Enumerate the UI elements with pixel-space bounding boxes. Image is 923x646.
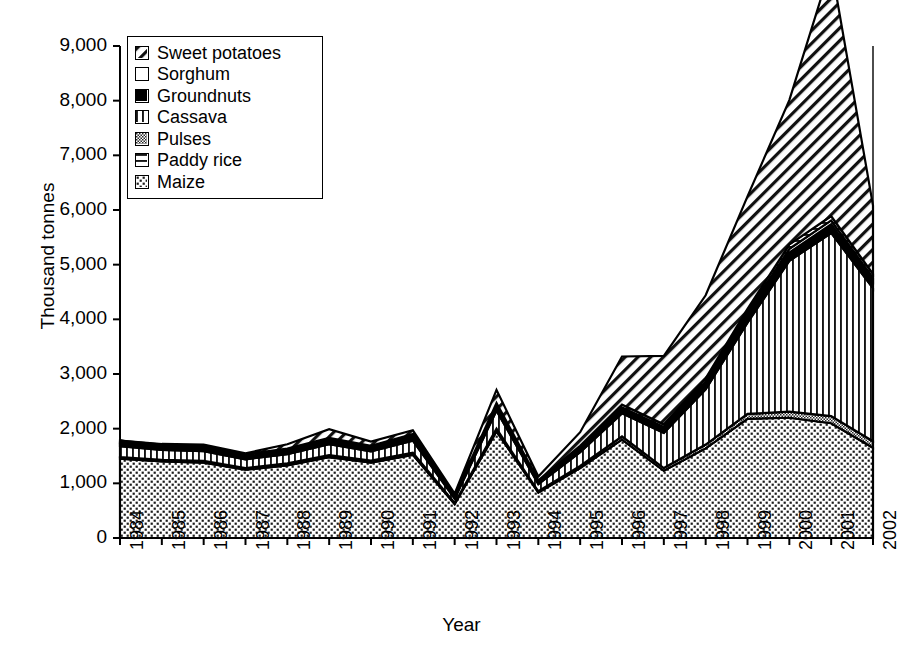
legend-label: Sorghum xyxy=(157,65,230,83)
legend-label: Groundnuts xyxy=(157,87,251,105)
x-tick-label: 1984 xyxy=(127,510,148,550)
legend-swatch-cassava-vertical-icon xyxy=(135,110,149,124)
y-tick-label: 8,000 xyxy=(7,89,107,111)
x-tick-label: 1994 xyxy=(545,510,566,550)
legend-item-sweet-potatoes: Sweet potatoes xyxy=(135,42,315,64)
legend-label: Maize xyxy=(157,173,205,191)
x-tick-label: 2002 xyxy=(880,510,901,550)
y-tick-label: 0 xyxy=(7,526,107,548)
stacked-area-chart: 01,0002,0003,0004,0005,0006,0007,0008,00… xyxy=(0,0,923,646)
legend-label: Sweet potatoes xyxy=(157,44,281,62)
chart-legend: Sweet potatoesSorghumGroundnutsCassavaPu… xyxy=(127,36,323,199)
x-tick-label: 1993 xyxy=(504,510,525,550)
x-tick-label: 2001 xyxy=(838,510,859,550)
x-tick-label: 1995 xyxy=(587,510,608,550)
x-tick-label: 1998 xyxy=(713,510,734,550)
legend-swatch-groundnuts-solid-icon xyxy=(135,89,149,103)
legend-item-paddy-rice: Paddy rice xyxy=(135,150,315,172)
y-tick-label: 1,000 xyxy=(7,471,107,493)
legend-label: Paddy rice xyxy=(157,151,242,169)
x-tick-label: 2000 xyxy=(796,510,817,550)
legend-swatch-paddyrice-horizontal-icon xyxy=(135,153,149,167)
legend-swatch-pulses-fine-icon xyxy=(135,132,149,146)
y-tick-label: 9,000 xyxy=(7,34,107,56)
x-tick-label: 1997 xyxy=(671,510,692,550)
x-tick-label: 1987 xyxy=(253,510,274,550)
legend-item-cassava: Cassava xyxy=(135,107,315,129)
x-tick-label: 1985 xyxy=(169,510,190,550)
x-tick-label: 1999 xyxy=(755,510,776,550)
y-tick-label: 2,000 xyxy=(7,417,107,439)
legend-item-sorghum: Sorghum xyxy=(135,64,315,86)
x-tick-label: 1991 xyxy=(420,510,441,550)
x-tick-label: 1986 xyxy=(211,510,232,550)
legend-label: Pulses xyxy=(157,130,211,148)
legend-item-groundnuts: Groundnuts xyxy=(135,85,315,107)
legend-swatch-sweetpotato-diagonal-icon xyxy=(135,46,149,60)
legend-item-maize: Maize xyxy=(135,171,315,193)
x-tick-label: 1992 xyxy=(462,510,483,550)
x-tick-label: 1988 xyxy=(294,510,315,550)
x-tick-label: 1990 xyxy=(378,510,399,550)
y-axis-title: Thousand tonnes xyxy=(37,146,59,366)
legend-swatch-sorghum-blank-icon xyxy=(135,67,149,81)
x-tick-label: 1996 xyxy=(629,510,650,550)
legend-label: Cassava xyxy=(157,108,227,126)
legend-swatch-maize-dots-icon xyxy=(135,175,149,189)
x-axis-title: Year xyxy=(0,614,923,636)
legend-item-pulses: Pulses xyxy=(135,128,315,150)
x-tick-label: 1989 xyxy=(336,510,357,550)
